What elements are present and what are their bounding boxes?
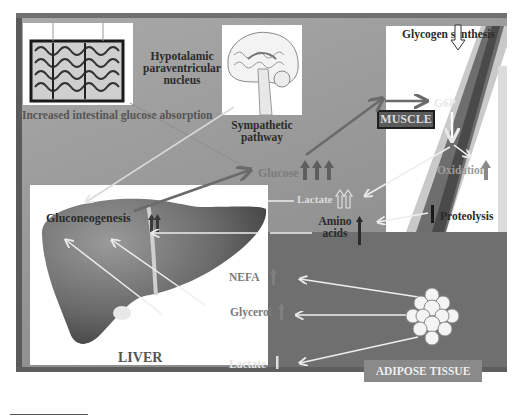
liver-label: LIVER — [118, 351, 162, 366]
adipose-label: ADIPOSE TISSUE — [376, 365, 471, 377]
gluconeogenesis-label: Gluconeogenesis — [46, 212, 131, 225]
glycerol-label: Glycerol — [230, 306, 272, 318]
sympathetic-pathway-label: Sympathetic pathway — [222, 119, 302, 143]
glycogen-synthesis-label: Glycogen synthesis — [402, 28, 495, 40]
proteolysis-label: Proteolysis — [440, 210, 493, 222]
muscle-illustration — [386, 26, 507, 232]
brain-label: Hypotalamic paraventricular nucleus — [140, 50, 224, 86]
intestine-illustration — [23, 23, 133, 105]
amino-acids-label: Amino acids — [315, 215, 355, 239]
g6p-label: G6P — [434, 97, 456, 109]
nefa-label: NEFA — [229, 271, 259, 283]
intestine-label: Increased intestinal glucose absorption — [22, 109, 134, 121]
muscle-label-box: MUSCLE — [377, 110, 435, 129]
brain-illustration — [222, 25, 302, 115]
frame-top-border — [16, 13, 507, 18]
oxidation-label: Oxidation — [437, 164, 486, 176]
footnote-rule — [10, 414, 88, 415]
adipose-label-box: ADIPOSE TISSUE — [364, 360, 482, 382]
muscle-label: MUSCLE — [380, 112, 431, 127]
glucose-label: Glucose — [258, 167, 299, 180]
lactate-adipose-label: Lactate — [229, 358, 266, 370]
lactate-muscle-label: Lactate — [297, 194, 332, 206]
adipose-region — [268, 232, 507, 372]
